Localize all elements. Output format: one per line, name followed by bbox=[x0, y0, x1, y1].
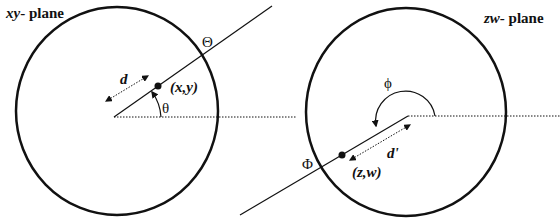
xy-point-label: (x,y) bbox=[170, 79, 198, 96]
xy-plane-circle bbox=[16, 7, 218, 215]
xy-plane-title: xy- plane bbox=[5, 5, 64, 21]
zw-phi-label: ϕ bbox=[384, 75, 392, 91]
zw-plane-circle bbox=[306, 8, 506, 216]
zw-phi-arc bbox=[376, 91, 435, 126]
xy-boundary-label: Θ bbox=[202, 34, 213, 50]
xy-plane-panel: d (x,y) θ Θ xy- plane bbox=[5, 5, 272, 215]
zw-point-marker bbox=[339, 152, 346, 159]
zw-plane-panel: ϕ d' (z,w) Φ zw- plane bbox=[240, 8, 544, 216]
xy-plane-title-var: xy bbox=[5, 5, 21, 21]
zw-radial-line bbox=[240, 116, 408, 215]
zw-plane-title-var: zw bbox=[483, 10, 501, 26]
xy-theta-arc bbox=[152, 92, 161, 117]
xy-distance-label: d bbox=[120, 71, 128, 87]
xy-theta-label: θ bbox=[162, 100, 169, 116]
zw-plane-title: zw- plane bbox=[483, 10, 544, 26]
zw-distance-label: d' bbox=[387, 145, 399, 161]
zw-boundary-label: Φ bbox=[302, 156, 313, 172]
xy-point-marker bbox=[155, 83, 162, 90]
xy-plane-title-suffix: - plane bbox=[20, 5, 64, 21]
xy-radial-line bbox=[114, 6, 272, 117]
zw-point-label: (z,w) bbox=[352, 164, 382, 181]
zw-plane-title-suffix: - plane bbox=[500, 10, 544, 26]
diagram-canvas: d (x,y) θ Θ xy- plane ϕ d' (z,w) Φ zw- p… bbox=[0, 0, 560, 220]
zw-distance-arrow bbox=[352, 126, 408, 159]
